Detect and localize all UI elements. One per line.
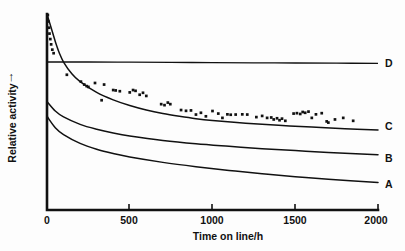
scatter-point bbox=[132, 89, 135, 92]
scatter-point bbox=[278, 119, 281, 122]
chart-plot-area: 0 500 1000 1500 2000 Time on line/h D C … bbox=[0, 0, 405, 251]
scatter-point bbox=[128, 91, 131, 94]
series-label-B: B bbox=[385, 152, 393, 164]
scatter-point bbox=[229, 113, 232, 116]
scatter-point bbox=[112, 89, 115, 92]
scatter-point bbox=[246, 113, 249, 116]
scatter-points-C bbox=[46, 14, 354, 124]
scatter-point bbox=[169, 103, 172, 106]
scatter-point bbox=[292, 112, 295, 115]
scatter-point bbox=[217, 112, 220, 115]
scatter-point bbox=[138, 93, 141, 96]
scatter-point bbox=[48, 32, 51, 35]
scatter-point bbox=[52, 52, 55, 55]
scatter-point bbox=[327, 121, 330, 124]
scatter-point bbox=[221, 117, 224, 120]
scatter-point bbox=[180, 109, 183, 112]
scatter-point bbox=[142, 91, 145, 94]
scatter-point bbox=[304, 111, 307, 114]
scatter-point bbox=[234, 113, 237, 116]
y-axis-title-text: Relative activity bbox=[6, 83, 18, 162]
scatter-point bbox=[200, 111, 203, 114]
scatter-point bbox=[261, 115, 264, 118]
scatter-point bbox=[320, 112, 323, 115]
scatter-point bbox=[134, 89, 137, 92]
scatter-point bbox=[301, 111, 304, 114]
y-axis-title: Relative activity bbox=[2, 58, 22, 188]
chart-figure: 0 500 1000 1500 2000 Time on line/h D C … bbox=[0, 0, 405, 251]
scatter-point bbox=[211, 110, 214, 113]
scatter-point bbox=[272, 118, 275, 121]
scatter-point bbox=[51, 48, 54, 51]
scatter-point bbox=[205, 115, 208, 118]
curve-D bbox=[47, 62, 378, 63]
scatter-point bbox=[281, 117, 284, 120]
scatter-point bbox=[226, 113, 229, 116]
scatter-point bbox=[83, 83, 86, 86]
scatter-point bbox=[114, 89, 117, 92]
scatter-point bbox=[100, 99, 103, 102]
scatter-point bbox=[163, 104, 166, 107]
scatter-point bbox=[46, 14, 49, 17]
scatter-point bbox=[255, 116, 258, 119]
scatter-point bbox=[118, 90, 121, 93]
scatter-point bbox=[352, 119, 355, 122]
curve-A bbox=[47, 116, 378, 182]
x-tick-label-500: 500 bbox=[120, 214, 138, 226]
scatter-point bbox=[310, 117, 313, 120]
scatter-point bbox=[49, 38, 52, 41]
scatter-point bbox=[160, 103, 163, 106]
x-tick-label-2000: 2000 bbox=[364, 214, 388, 226]
scatter-point bbox=[103, 83, 106, 86]
scatter-point bbox=[48, 26, 51, 29]
scatter-point bbox=[342, 117, 345, 120]
scatter-point bbox=[284, 119, 287, 122]
x-tick-label-0: 0 bbox=[44, 214, 50, 226]
scatter-point bbox=[47, 20, 50, 23]
x-tick-label-1000: 1000 bbox=[200, 214, 224, 226]
scatter-point bbox=[94, 82, 97, 85]
curve-C bbox=[47, 14, 378, 130]
scatter-point bbox=[80, 80, 83, 83]
scatter-point bbox=[241, 113, 244, 116]
scatter-point bbox=[296, 112, 299, 115]
series-label-C: C bbox=[385, 120, 393, 132]
scatter-point bbox=[66, 73, 69, 76]
scatter-point bbox=[195, 113, 198, 116]
scatter-point bbox=[145, 95, 148, 98]
scatter-point bbox=[166, 101, 169, 104]
scatter-point bbox=[87, 86, 90, 89]
scatter-point bbox=[266, 117, 269, 120]
scatter-point bbox=[307, 110, 310, 113]
scatter-point bbox=[190, 109, 193, 112]
scatter-point bbox=[334, 118, 337, 121]
scatter-point bbox=[299, 113, 302, 116]
scatter-point bbox=[276, 117, 279, 120]
scatter-point bbox=[185, 109, 188, 112]
x-axis-title: Time on line/h bbox=[193, 230, 263, 242]
x-tick-label-1500: 1500 bbox=[283, 214, 307, 226]
series-curves bbox=[47, 14, 378, 183]
scatter-point bbox=[270, 116, 273, 119]
scatter-point bbox=[315, 113, 318, 116]
scatter-point bbox=[50, 43, 53, 46]
series-label-D: D bbox=[385, 57, 393, 69]
series-label-A: A bbox=[385, 178, 393, 190]
